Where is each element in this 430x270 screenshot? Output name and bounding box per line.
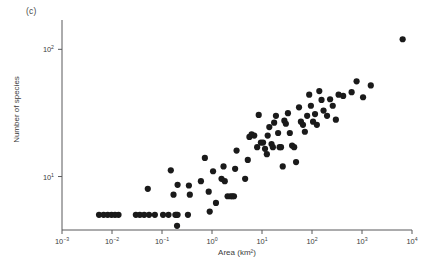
- plot-area: 10−310−210−1100101102103104101102: [0, 0, 430, 270]
- data-point: [264, 151, 270, 157]
- data-point: [354, 78, 360, 84]
- data-point: [308, 103, 314, 109]
- data-point: [285, 110, 291, 116]
- data-point: [283, 121, 289, 127]
- data-point: [316, 88, 322, 94]
- data-point: [271, 120, 277, 126]
- data-point: [314, 122, 320, 128]
- y-tick-label: 101: [43, 172, 54, 182]
- data-point: [327, 96, 333, 102]
- species-area-scatter-figure: (c) Number of species Area (km²) 10−310−…: [0, 0, 430, 270]
- data-point: [324, 113, 330, 119]
- data-point: [206, 189, 212, 195]
- data-point: [220, 163, 226, 169]
- data-point: [280, 163, 286, 169]
- data-point: [174, 223, 180, 229]
- data-point: [222, 178, 228, 184]
- x-tick-label: 100: [206, 236, 217, 246]
- data-point: [302, 129, 308, 135]
- data-point: [262, 146, 268, 152]
- data-point: [291, 144, 297, 150]
- data-point: [333, 117, 339, 123]
- data-point: [360, 94, 366, 100]
- data-point: [275, 130, 281, 136]
- data-point: [202, 155, 208, 161]
- x-tick-label: 104: [406, 236, 417, 246]
- x-tick-label: 10−2: [105, 236, 119, 246]
- data-point: [349, 89, 355, 95]
- data-point: [145, 186, 151, 192]
- data-point: [340, 93, 346, 99]
- data-point: [260, 139, 266, 145]
- data-point: [165, 212, 171, 218]
- data-point: [207, 209, 213, 215]
- data-point: [296, 104, 302, 110]
- data-point: [115, 212, 121, 218]
- data-point: [306, 92, 312, 98]
- data-point: [293, 159, 299, 165]
- data-point: [186, 182, 192, 188]
- data-point: [187, 192, 193, 198]
- data-point: [185, 212, 191, 218]
- data-point: [300, 122, 306, 128]
- x-tick-label: 10−1: [155, 236, 169, 246]
- data-point: [320, 107, 326, 113]
- data-point: [278, 144, 284, 150]
- data-point: [270, 144, 276, 150]
- data-point: [266, 124, 272, 130]
- data-point: [273, 113, 279, 119]
- data-point: [231, 193, 237, 199]
- x-tick-label: 102: [306, 236, 317, 246]
- data-point: [174, 182, 180, 188]
- data-point: [245, 157, 251, 163]
- data-point: [287, 130, 293, 136]
- y-tick-label: 102: [43, 44, 54, 54]
- data-point: [198, 178, 204, 184]
- data-point: [330, 103, 336, 109]
- data-point: [146, 212, 152, 218]
- x-tick-label: 10−3: [55, 236, 69, 246]
- data-point: [232, 166, 238, 172]
- x-tick-label: 101: [256, 236, 267, 246]
- data-point: [168, 167, 174, 173]
- x-tick-label: 103: [356, 236, 367, 246]
- data-point: [170, 192, 176, 198]
- data-point: [174, 212, 180, 218]
- data-point: [312, 111, 318, 117]
- data-point: [242, 176, 248, 182]
- data-point: [233, 147, 239, 153]
- data-point: [400, 36, 406, 42]
- data-point: [304, 113, 310, 119]
- data-point: [265, 132, 271, 138]
- data-point: [256, 112, 262, 118]
- data-point: [318, 97, 324, 103]
- data-point: [251, 132, 257, 138]
- data-point: [368, 82, 374, 88]
- data-point: [213, 200, 219, 206]
- axis-lines: [62, 20, 412, 230]
- data-point: [160, 212, 166, 218]
- data-point: [152, 212, 158, 218]
- data-point: [210, 168, 216, 174]
